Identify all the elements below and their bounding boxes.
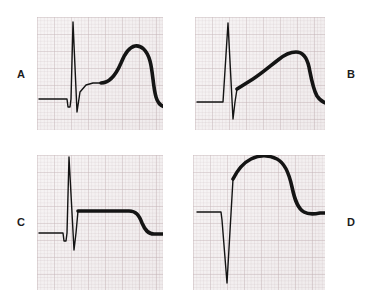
- waveform-trace-d: [193, 155, 325, 290]
- waveform-trace-a: [37, 17, 163, 130]
- panel-b: [195, 17, 325, 130]
- panel-a: [37, 17, 163, 130]
- ecg-figure: A B C D: [0, 0, 370, 305]
- panel-d: [193, 155, 325, 290]
- waveform-trace-c: [37, 155, 163, 290]
- waveform-trace-b: [195, 17, 325, 130]
- panel-label-d: D: [347, 217, 355, 228]
- panel-label-b: B: [347, 69, 355, 80]
- panel-label-c: C: [17, 217, 25, 228]
- panel-c: [37, 155, 163, 290]
- panel-label-a: A: [17, 69, 25, 80]
